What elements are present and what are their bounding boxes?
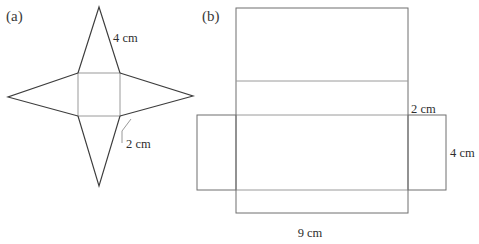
canvas-background bbox=[0, 0, 479, 244]
dimension-label-4cm-b: 4 cm bbox=[450, 146, 475, 160]
geometry-figure-canvas: (a) 4 cm 2 cm (b) 2 cm 4 cm 9 cm bbox=[0, 0, 479, 244]
dimension-label-9cm-b: 9 cm bbox=[298, 226, 323, 240]
dimension-label-2cm-b: 2 cm bbox=[411, 102, 436, 116]
dimension-label-4cm-a: 4 cm bbox=[113, 31, 138, 45]
panel-b-label: (b) bbox=[202, 8, 220, 25]
panel-a-label: (a) bbox=[6, 8, 23, 25]
dimension-label-2cm-a: 2 cm bbox=[126, 137, 151, 151]
